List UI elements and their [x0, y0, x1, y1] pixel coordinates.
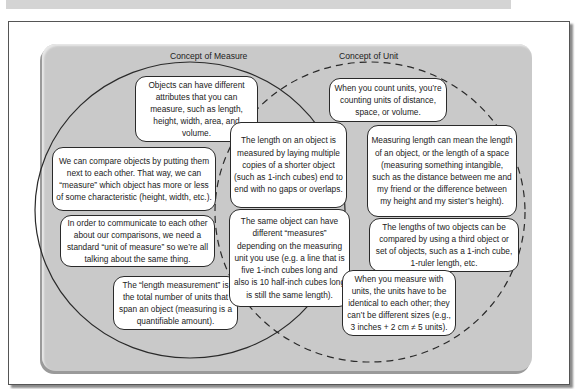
unit-set-title: Concept of Unit: [339, 51, 398, 61]
statement-text: The length on an object is measured by l…: [234, 134, 343, 195]
statement-text: Measuring length can mean the length of …: [371, 134, 513, 207]
statement-text: We can compare objects by putting them n…: [56, 155, 212, 204]
overlap-statement-laying-copies: The length on an object is measured by l…: [230, 122, 347, 208]
statement-text: The “length measurement” is the total nu…: [117, 279, 234, 328]
measure-statement-compare: We can compare objects by putting them n…: [52, 147, 216, 211]
measure-set-title: Concept of Measure: [170, 51, 247, 61]
measure-statement-length-measurement: The “length measurement” is the total nu…: [113, 276, 238, 330]
statement-text: In order to communicate to each other ab…: [64, 217, 211, 266]
statement-text: When you count units, you’re counting un…: [333, 82, 443, 119]
overlap-statement-different-measures: The same object can have different “meas…: [229, 209, 350, 307]
statement-text: The lengths of two objects can be compar…: [373, 221, 515, 270]
measure-statement-standard-unit: In order to communicate to each other ab…: [60, 215, 215, 267]
unit-statement-length-of-space: Measuring length can mean the length of …: [367, 125, 517, 217]
statement-text: The same object can have different “meas…: [233, 215, 346, 300]
unit-statement-third-object: The lengths of two objects can be compar…: [369, 218, 519, 272]
statement-text: When you measure with units, the units h…: [346, 273, 452, 334]
unit-statement-identical-units: When you measure with units, the units h…: [342, 270, 456, 336]
unit-statement-counting-units: When you count units, you’re counting un…: [329, 78, 447, 122]
